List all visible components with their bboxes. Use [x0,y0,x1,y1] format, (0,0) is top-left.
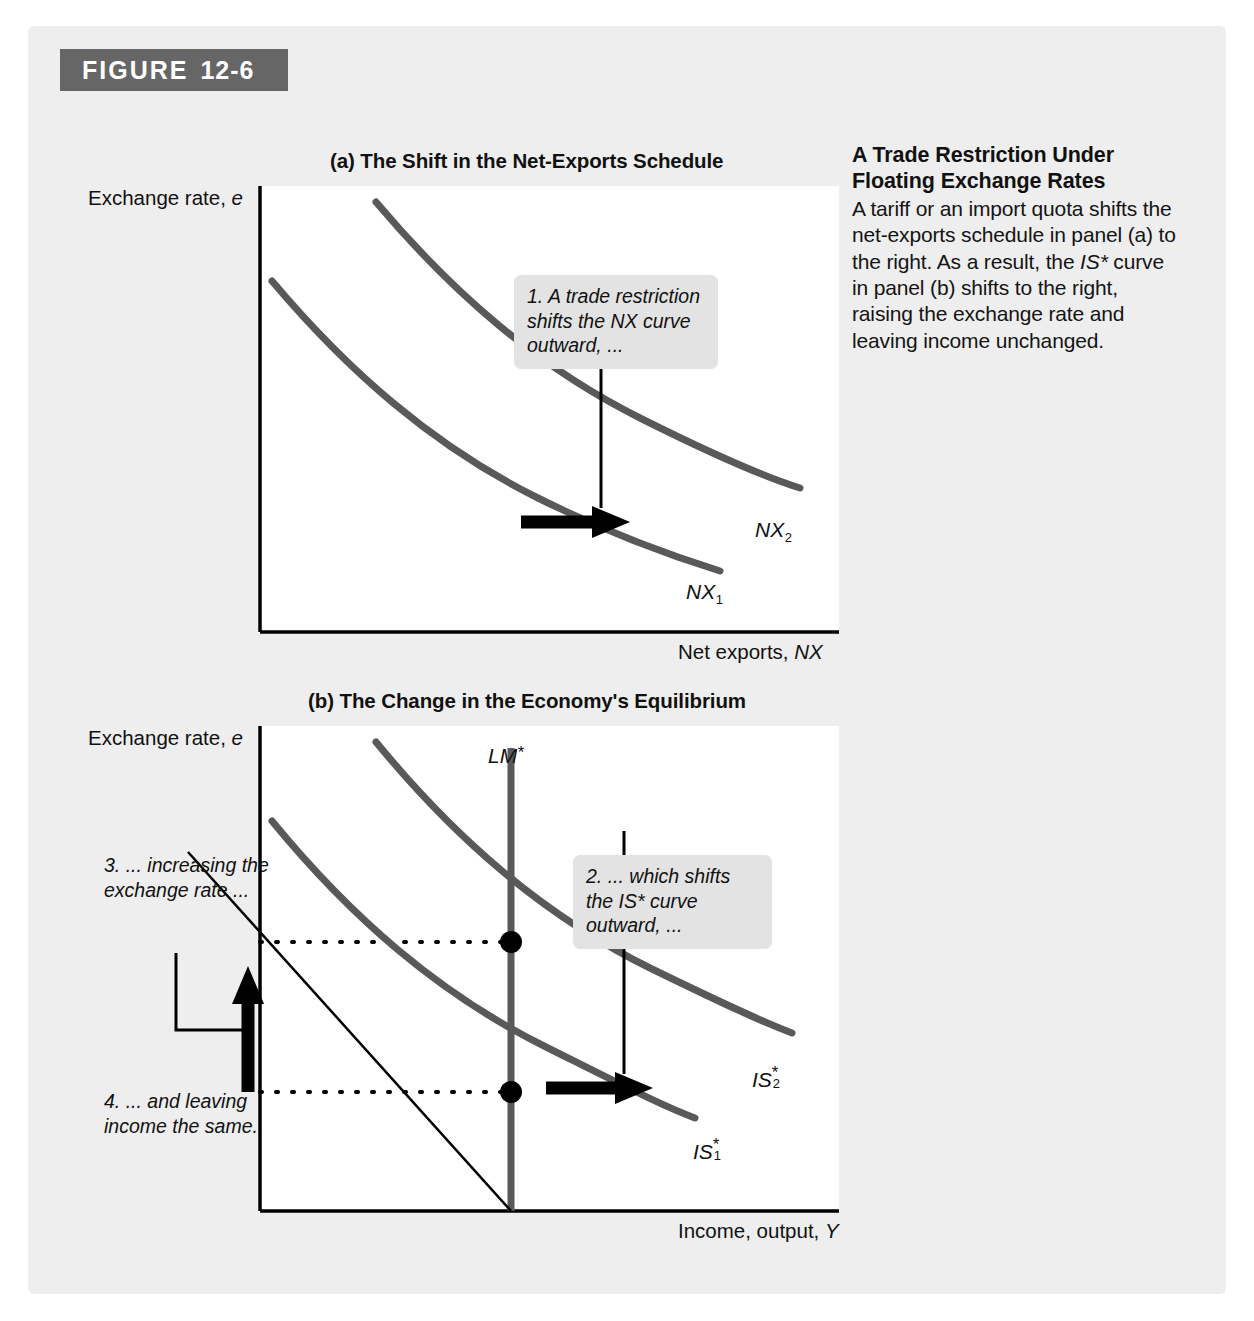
panel-b-note3-leader [176,953,248,1030]
panel-b-is1-group: IS*1 [693,1140,713,1164]
panel-b-curve-label-lm: LM* [488,743,524,768]
figure-page: FIGURE 12-6 A Trade Restriction Under Fl… [0,0,1254,1321]
panel-b-annotation-2: 2. ... which shifts the IS* curve outwar… [573,855,772,949]
panel-b-curve-label-is2: IS*2 [752,1068,772,1092]
panel-b-is1-base: IS [693,1140,713,1163]
panel-b-lm-star: * [518,743,525,762]
panel-b-annotation-3: 3. ... increasing the exchange rate ... [104,853,279,902]
panel-b-is2-subscript: 2 [773,1076,780,1091]
panel-b-curve-label-is1: IS*1 [693,1140,713,1164]
panel-b-is1-subscript: 1 [714,1148,721,1163]
panel-b-is2-group: IS*2 [752,1068,772,1092]
panel-b-lm-base: LM [488,744,517,767]
panel-b-is2-base: IS [752,1068,772,1091]
panel-b-annotation-4: 4. ... and leaving income the same. [104,1089,284,1138]
